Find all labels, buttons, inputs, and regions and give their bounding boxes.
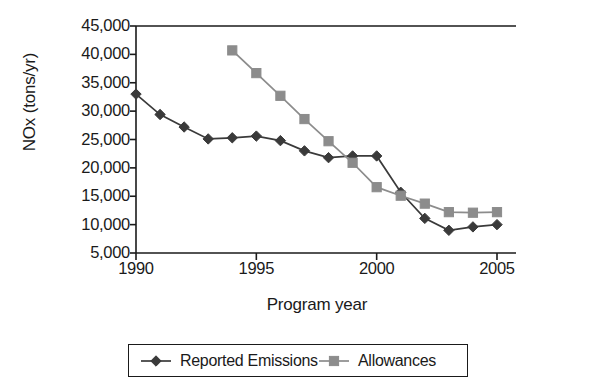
data-point-marker — [444, 208, 453, 217]
data-point-marker — [444, 225, 454, 235]
data-point-marker — [228, 46, 237, 55]
data-point-marker — [300, 114, 309, 123]
legend-label: Allowances — [358, 352, 436, 370]
data-point-marker — [276, 91, 285, 100]
data-point-marker — [252, 69, 261, 78]
data-point-marker — [372, 183, 381, 192]
square-marker-icon — [317, 353, 351, 369]
data-point-marker — [179, 122, 189, 132]
data-point-marker — [203, 134, 213, 144]
data-point-marker — [329, 356, 338, 365]
data-point-marker — [299, 146, 309, 156]
plot-area — [0, 0, 593, 385]
chart-legend: Reported EmissionsAllowances — [128, 344, 468, 377]
data-point-marker — [323, 152, 333, 162]
series-allowances — [228, 46, 502, 218]
data-point-marker — [371, 151, 381, 161]
data-point-marker — [348, 158, 357, 167]
legend-item-allowances[interactable]: Allowances — [317, 345, 436, 376]
data-point-marker — [251, 131, 261, 141]
data-point-marker — [420, 199, 429, 208]
x-axis-tick-label: 1995 — [216, 259, 296, 278]
data-point-marker — [468, 208, 477, 217]
data-point-marker — [468, 222, 478, 232]
data-point-marker — [227, 133, 237, 143]
x-axis-tick-label: 2000 — [337, 259, 417, 278]
x-axis-tick-label: 2005 — [457, 259, 537, 278]
nox-emissions-line-chart: NOx (tons/yr) 5,00010,00015,00020,00025,… — [0, 0, 593, 385]
data-point-marker — [324, 137, 333, 146]
data-point-marker — [151, 355, 161, 365]
data-point-marker — [275, 135, 285, 145]
data-point-marker — [492, 219, 502, 229]
legend-item-reported-emissions[interactable]: Reported Emissions — [139, 345, 318, 376]
legend-label: Reported Emissions — [180, 352, 318, 370]
series-line — [232, 50, 497, 212]
diamond-marker-icon — [139, 353, 173, 369]
data-point-marker — [396, 191, 405, 200]
x-axis-tick-label: 1990 — [96, 259, 176, 278]
data-point-marker — [492, 208, 501, 217]
x-axis-title: Program year — [136, 295, 498, 315]
